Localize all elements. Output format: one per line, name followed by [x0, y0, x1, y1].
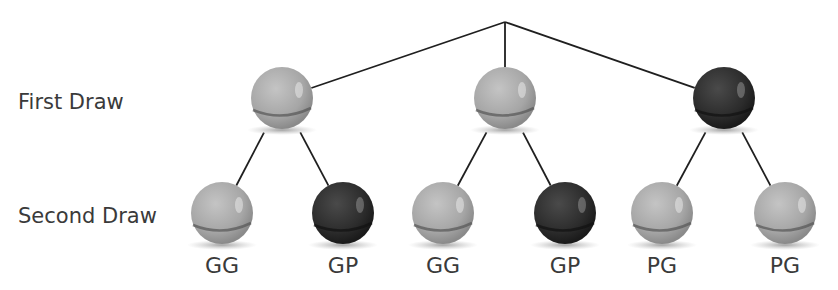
gray-marble — [408, 182, 478, 250]
dark-marble — [308, 182, 378, 250]
branch-line — [311, 22, 505, 88]
outcome-label: GP — [328, 253, 358, 278]
branch-line — [236, 133, 264, 186]
gray-marble — [627, 182, 697, 250]
outcome-label: GP — [550, 253, 580, 278]
gray-marble — [247, 67, 317, 135]
branch-line — [742, 132, 770, 185]
first-draw-label: First Draw — [18, 90, 124, 114]
second-draw-label: Second Draw — [18, 204, 157, 228]
marbles — [187, 67, 820, 250]
gray-marble — [470, 67, 540, 135]
dark-marble — [530, 182, 600, 250]
branch-line — [677, 132, 706, 185]
branch-line — [300, 132, 328, 185]
tree-diagram — [0, 0, 838, 290]
outcome-label: PG — [770, 253, 800, 278]
outcome-label: PG — [647, 253, 677, 278]
branch-line — [505, 22, 695, 88]
branch-line — [523, 133, 551, 186]
branch-line — [458, 132, 487, 185]
gray-marble — [750, 182, 820, 250]
outcome-label: GG — [205, 253, 239, 278]
gray-marble — [187, 182, 257, 250]
outcome-label: GG — [426, 253, 460, 278]
dark-marble — [689, 67, 759, 135]
